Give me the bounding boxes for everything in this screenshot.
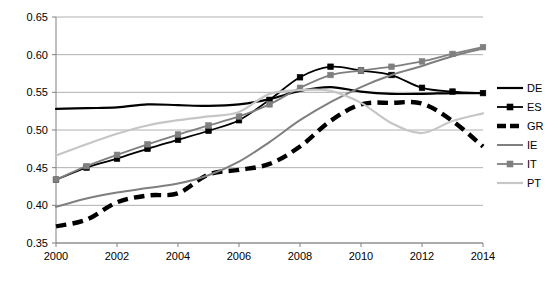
legend-label-it: IT [527,158,537,170]
y-axis-tick-labels: 0.350.400.450.500.550.600.65 [27,11,48,249]
data-point-marker [419,59,425,65]
data-point-marker [480,90,486,96]
x-axis-tick-marks [56,243,483,247]
y-tick-label-6: 0.65 [27,11,48,23]
x-tick-label-0: 2000 [44,250,68,262]
legend-item-es[interactable]: ES [497,101,542,113]
legend-label-ie: IE [527,139,537,151]
data-point-marker [206,128,212,134]
x-tick-label-4: 2008 [288,250,312,262]
data-point-marker [175,132,181,138]
data-point-marker [145,142,151,148]
y-axis-tick-marks [52,17,56,243]
y-tick-label-1: 0.40 [27,199,48,211]
chart-legend: DEESGRIEITPT [497,82,544,189]
data-point-marker [450,89,456,95]
data-point-marker [175,137,181,143]
data-point-marker [480,44,486,50]
x-tick-label-5: 2010 [349,250,373,262]
legend-label-gr: GR [527,120,544,132]
data-point-marker [389,64,395,70]
data-point-marker [206,123,212,129]
y-tick-label-0: 0.35 [27,237,48,249]
x-tick-label-3: 2006 [227,250,251,262]
legend-item-it[interactable]: IT [497,158,537,170]
legend-label-es: ES [527,101,542,113]
legend-marker-es [507,104,513,110]
legend-label-de: DE [527,82,542,94]
chart-container: 0.350.400.450.500.550.600.65 20002002200… [0,0,558,282]
y-tick-label-2: 0.45 [27,162,48,174]
y-tick-label-5: 0.60 [27,49,48,61]
legend-marker-it [507,161,513,167]
legend-item-pt[interactable]: PT [497,177,541,189]
x-tick-label-6: 2012 [410,250,434,262]
legend-item-ie[interactable]: IE [497,139,537,151]
data-point-marker [419,85,425,91]
x-tick-label-2: 2004 [166,250,190,262]
line-chart: 0.350.400.450.500.550.600.65 20002002200… [0,0,558,282]
legend-item-gr[interactable]: GR [497,120,544,132]
data-point-marker [267,102,273,108]
x-tick-label-7: 2014 [471,250,495,262]
data-point-marker [53,177,59,183]
data-point-marker [297,74,303,80]
y-tick-label-3: 0.50 [27,124,48,136]
legend-item-de[interactable]: DE [497,82,542,94]
x-axis-tick-labels: 20002002200420062008201020122014 [44,250,495,262]
data-point-marker [328,64,334,70]
y-tick-label-4: 0.55 [27,86,48,98]
data-point-marker [450,51,456,57]
data-point-marker [328,72,334,78]
data-point-marker [358,68,364,74]
data-point-marker [236,114,242,120]
legend-label-pt: PT [527,177,541,189]
data-point-marker [84,163,90,169]
data-point-marker [114,152,120,158]
x-tick-label-1: 2002 [105,250,129,262]
